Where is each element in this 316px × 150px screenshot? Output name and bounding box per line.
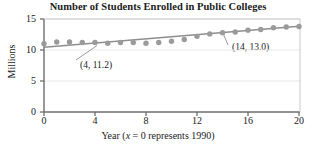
data-point	[220, 30, 225, 35]
plot-area	[0, 0, 316, 150]
data-point	[296, 24, 301, 29]
data-point	[233, 29, 238, 34]
data-point	[80, 40, 85, 45]
axis-frame	[44, 19, 300, 112]
leader-line-annotation-4	[76, 46, 97, 60]
data-point	[194, 34, 199, 39]
data-point	[284, 24, 289, 29]
data-point	[182, 37, 187, 42]
data-points	[41, 24, 301, 47]
data-point	[67, 39, 72, 44]
data-point	[92, 40, 97, 45]
leader-line-annotation-14	[224, 34, 229, 45]
data-point	[131, 40, 136, 45]
data-point	[118, 40, 123, 45]
data-point	[156, 40, 161, 45]
data-point	[143, 40, 148, 45]
axis-ticks	[40, 19, 299, 116]
data-point	[258, 27, 263, 32]
data-point	[245, 27, 250, 32]
data-point	[271, 25, 276, 30]
data-point	[41, 41, 46, 46]
data-point	[105, 40, 110, 45]
chart-container: Number of Students Enrolled in Public Co…	[0, 0, 316, 150]
data-point	[54, 39, 59, 44]
data-point	[207, 31, 212, 36]
data-point	[169, 39, 174, 44]
